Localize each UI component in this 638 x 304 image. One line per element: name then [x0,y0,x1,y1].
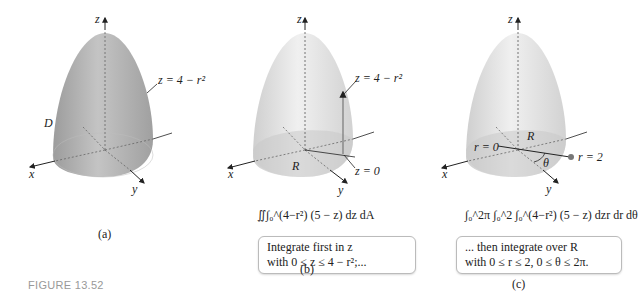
panel-a-y-axis-label: y [132,183,137,195]
panel-c-paraboloid [442,18,587,183]
panel-b-note-line1: Integrate first in z [267,240,407,255]
panel-a-caption: (a) [98,227,111,242]
panel-c-note-line2: with 0 ≤ r ≤ 2, 0 ≤ θ ≤ 2π. [465,255,613,270]
point-r2-dot [568,154,574,160]
panel-b-base-label: z = 0 [355,165,380,177]
panel-c-r2-label: r = 2 [578,151,603,163]
panel-b-caption: (b) [300,262,314,277]
panel-b-region-label: R [292,160,299,172]
panel-a-region-label: D [44,117,53,129]
panel-b-x-axis-label: x [228,168,233,180]
panel-c-r0-label: r = 0 [474,141,499,153]
panel-a-x-axis-label: x [29,168,34,180]
panel-c-x-axis-label: x [442,168,447,180]
panel-c-caption: (c) [512,277,525,292]
panel-a-paraboloid [30,18,172,183]
panel-c-theta-label: θ [543,157,549,169]
panel-c-integral: ∫₀^2π ∫₀^2 ∫₀^(4−r²) (5 − z) dzr dr dθ [465,208,638,223]
panel-b-surface-label: z = 4 − r² [355,72,402,84]
panel-a-z-axis-label: z [95,13,100,25]
panel-b-z-axis-label: z [297,13,302,25]
panel-c-note-line1: ... then integrate over R [465,240,613,255]
panel-b-note-line2: with 0 ≤ z ≤ 4 − r²;... [267,255,407,270]
panel-b-y-axis-label: y [338,184,343,196]
panel-c-region-label: R [527,130,534,142]
panel-b-integral: ∬∫₀^(4−r²) (5 − z) dz dA [257,208,375,223]
panel-b-paraboloid [228,18,374,183]
panel-b-note: Integrate first in z with 0 ≤ z ≤ 4 − r²… [258,236,416,274]
figure-number: FIGURE 13.52 [28,279,104,291]
panel-c-z-axis-label: z [508,13,513,25]
panel-c-y-axis-label: y [546,183,551,195]
panel-c-note: ... then integrate over R with 0 ≤ r ≤ 2… [456,236,622,274]
panel-a-surface-label: z = 4 − r² [158,74,205,86]
